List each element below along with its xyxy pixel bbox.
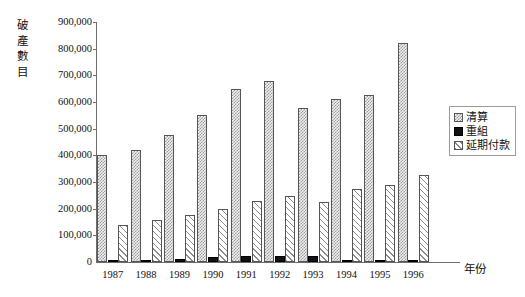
- y-axis-tick-mark: [93, 235, 97, 236]
- legend-swatch-icon: [454, 127, 463, 136]
- bar-1991-延期付款: [252, 201, 262, 262]
- x-axis-tick-label: 1987: [102, 269, 123, 280]
- y-axis-tick-mark: [93, 75, 97, 76]
- chart-legend: 清算重組延期付款: [449, 106, 516, 156]
- bar-1995-延期付款: [385, 185, 395, 262]
- x-axis-tick-label: 1989: [169, 269, 190, 280]
- bar-1990-清算: [197, 115, 207, 262]
- bar-1995-清算: [364, 95, 374, 262]
- bar-1993-清算: [298, 108, 308, 262]
- bar-group: [197, 22, 228, 262]
- legend-item-label: 延期付款: [466, 140, 510, 151]
- bar-1991-清算: [231, 89, 241, 262]
- bar-group: [97, 22, 128, 262]
- legend-item-重組: 重組: [454, 124, 510, 138]
- y-axis-tick-label: 600,000: [58, 97, 92, 108]
- bar-1988-重組: [141, 260, 151, 262]
- bar-1992-重組: [275, 256, 285, 262]
- y-axis-tick-labels: 0100,000200,000300,000400,000500,000600,…: [30, 0, 92, 297]
- bar-group: [298, 22, 329, 262]
- y-axis-title: 破 產 數 目: [14, 18, 30, 80]
- bar-1989-重組: [175, 259, 185, 262]
- y-axis-tick-label: 500,000: [58, 123, 92, 134]
- bar-1994-延期付款: [352, 189, 362, 262]
- bar-group: [398, 22, 429, 262]
- bar-1987-延期付款: [118, 225, 128, 262]
- y-axis-tick-label: 100,000: [58, 230, 92, 241]
- bar-1995-重組: [375, 260, 385, 262]
- bar-1994-清算: [331, 99, 341, 262]
- bar-group: [264, 22, 295, 262]
- y-axis-tick-label: 400,000: [58, 150, 92, 161]
- x-axis-tick-label: 1993: [303, 269, 324, 280]
- bar-group: [164, 22, 195, 262]
- bar-1988-清算: [131, 150, 141, 262]
- bar-1992-延期付款: [285, 196, 295, 262]
- bar-1994-重組: [342, 260, 352, 262]
- x-axis-title: 年份: [464, 263, 486, 275]
- bar-1993-重組: [308, 256, 318, 262]
- bar-group: [131, 22, 162, 262]
- bar-1988-延期付款: [152, 220, 162, 262]
- y-axis-tick-label: 0: [87, 257, 92, 268]
- y-axis-tick-mark: [93, 22, 97, 23]
- bar-1991-重組: [241, 256, 251, 262]
- legend-swatch-icon: [454, 113, 463, 122]
- bar-group: [231, 22, 262, 262]
- y-axis-tick-mark: [93, 155, 97, 156]
- plot-area: [96, 22, 430, 262]
- bankruptcy-bar-chart: 破 產 數 目 0100,000200,000300,000400,000500…: [0, 0, 525, 297]
- y-axis-tick-label: 900,000: [58, 17, 92, 28]
- legend-item-清算: 清算: [454, 110, 510, 124]
- bar-group: [364, 22, 395, 262]
- y-axis-tick-mark: [93, 129, 97, 130]
- legend-item-延期付款: 延期付款: [454, 138, 510, 152]
- y-axis-tick-label: 700,000: [58, 70, 92, 81]
- legend-item-label: 清算: [466, 112, 488, 123]
- x-axis-tick-label: 1991: [236, 269, 257, 280]
- x-axis-tick-label: 1990: [202, 269, 223, 280]
- x-axis-tick-label: 1995: [369, 269, 390, 280]
- y-axis-tick-label: 800,000: [58, 43, 92, 54]
- y-axis-tick-mark: [93, 182, 97, 183]
- x-axis-tick-label: 1988: [136, 269, 157, 280]
- y-axis-tick-label: 300,000: [58, 177, 92, 188]
- x-axis-tick-label: 1992: [269, 269, 290, 280]
- x-axis-tick-label: 1996: [403, 269, 424, 280]
- legend-item-label: 重組: [466, 126, 488, 137]
- bar-1990-重組: [208, 257, 218, 262]
- bar-1990-延期付款: [218, 209, 228, 262]
- x-axis-line: [96, 262, 460, 263]
- bar-1992-清算: [264, 81, 274, 262]
- x-axis-tick-label: 1994: [336, 269, 357, 280]
- bar-1996-重組: [408, 260, 418, 262]
- y-axis-tick-label: 200,000: [58, 203, 92, 214]
- y-axis-tick-mark: [93, 49, 97, 50]
- bar-1993-延期付款: [319, 202, 329, 262]
- bar-1996-清算: [398, 43, 408, 262]
- bar-1987-重組: [108, 260, 118, 262]
- bar-1989-延期付款: [185, 215, 195, 262]
- y-axis-tick-mark: [93, 102, 97, 103]
- y-axis-tick-mark: [93, 209, 97, 210]
- bar-1996-延期付款: [419, 175, 429, 262]
- bar-1987-清算: [97, 155, 107, 262]
- legend-swatch-icon: [454, 141, 463, 150]
- bar-group: [331, 22, 362, 262]
- bar-1989-清算: [164, 135, 174, 262]
